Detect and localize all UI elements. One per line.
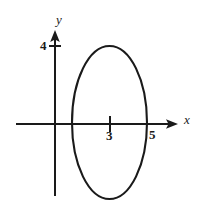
x-axis-label: x — [184, 113, 190, 126]
tick-label-x-3: 3 — [106, 129, 113, 142]
tick-label-y-4: 4 — [40, 39, 47, 52]
figure-root: y x 4 3 5 — [0, 0, 201, 208]
annotation-label-x-5: 5 — [149, 128, 156, 141]
y-axis-label: y — [56, 13, 62, 26]
graph-canvas — [0, 0, 201, 208]
